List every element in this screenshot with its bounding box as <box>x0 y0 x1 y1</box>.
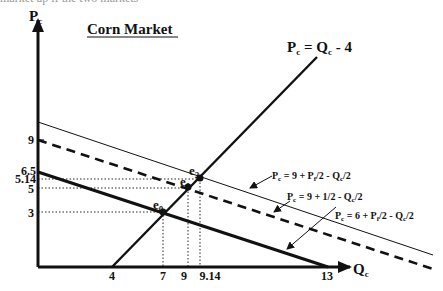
label-demand-mid: Pc = 9 + 1/2 - Qc/2 <box>287 191 362 204</box>
corn-market-diagram: Corn Market Pc Qc 9 6.5 5.14 5 3 4 7 9 9… <box>0 0 443 291</box>
label-demand-high: Pc = 9 + Pf/2 - Qc/2 <box>272 170 351 183</box>
chart-title: Corn Market <box>87 21 172 37</box>
label-demand-low: Pc = 6 + Pf/2 - Qc/2 <box>335 210 414 223</box>
x-tick-9: 9 <box>181 269 187 283</box>
label-e0: e0 <box>153 197 164 214</box>
label-e2: e2 <box>189 163 200 180</box>
guide-lines <box>38 179 200 267</box>
y-tick-9: 9 <box>28 133 34 147</box>
demand-curve-mid <box>38 140 433 269</box>
x-tick-7: 7 <box>160 269 166 283</box>
x-tick-labels: 4 7 9 9.14 13 <box>109 269 333 283</box>
y-axis-label: Pc <box>29 8 42 26</box>
y-tick-3: 3 <box>28 206 34 220</box>
supply-label: Pc = Qc - 4 <box>287 39 352 57</box>
y-tick-labels: 9 6.5 5.14 5 3 <box>15 133 36 220</box>
supply-curve <box>112 57 317 267</box>
arrow-demand-low <box>287 207 336 249</box>
y-tick-5: 5 <box>28 182 34 196</box>
arrow-demand-high <box>250 176 272 188</box>
x-tick-13: 13 <box>321 269 333 283</box>
x-axis-label: Qc <box>353 261 369 279</box>
x-tick-4: 4 <box>109 269 115 283</box>
x-tick-9.14: 9.14 <box>200 269 221 283</box>
